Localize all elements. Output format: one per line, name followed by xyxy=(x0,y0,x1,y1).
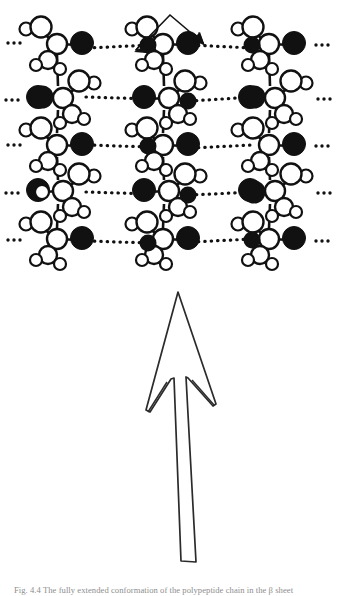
molecular-figure xyxy=(0,0,337,596)
figure-caption: Fig. 4.4 The fully extended conformation… xyxy=(14,586,324,595)
figure-caption-band: Fig. 4.4 The fully extended conformation… xyxy=(0,586,337,596)
figure-container: Fig. 4.4 The fully extended conformation… xyxy=(0,0,337,596)
filled-atom xyxy=(31,86,54,109)
